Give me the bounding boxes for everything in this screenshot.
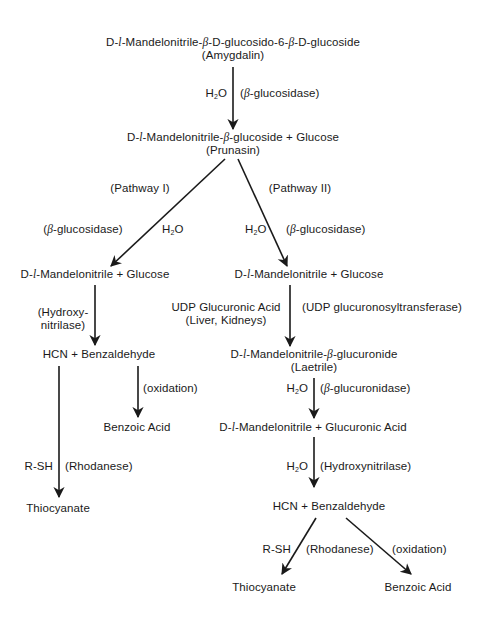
label-pathway-1: (Pathway I) xyxy=(110,182,169,195)
label-p2-oxidation: (oxidation) xyxy=(392,543,447,556)
label-beta-glucuronidase: (β-glucuronidase) xyxy=(320,382,411,395)
label-p1-h2o: H2O xyxy=(162,223,183,236)
node-p1-mandelonitrile: D-l-Mandelonitrile + Glucose xyxy=(21,268,170,281)
amygdalin-alias: (Amygdalin) xyxy=(202,49,264,62)
node-p1-thiocyanate: Thiocyanate xyxy=(26,502,90,515)
label-p2-rhodanese: (Rhodanese) xyxy=(306,543,374,556)
label-h2o: H2O xyxy=(206,87,227,100)
label-p2-h2o: H2O xyxy=(245,223,266,236)
label-p2-hydroxynitrilase: (Hydroxynitrilase) xyxy=(320,460,411,473)
node-p2-benzoic-acid: Benzoic Acid xyxy=(384,581,451,594)
label-udp-glucuronic-acid: UDP Glucuronic Acid xyxy=(171,301,280,314)
node-prunasin: D-l-Mandelonitrile-β-glucoside + Glucose xyxy=(127,131,339,144)
label-p1-rhodanese: (Rhodanese) xyxy=(65,460,133,473)
node-p2-mandelonitrile-glucuronic: D-l-Mandelonitrile + Glucuronic Acid xyxy=(219,421,406,434)
node-laetrile: D-l-Mandelonitrile-β-glucuronide xyxy=(231,348,398,361)
label-p2-glucuronidase-h2o: H2O xyxy=(287,382,308,395)
node-p2-hcn-benzaldehyde: HCN + Benzaldehyde xyxy=(273,500,386,513)
arrow-pathway-1 xyxy=(111,159,225,266)
label-liver-kidneys: (Liver, Kidneys) xyxy=(186,314,267,327)
label-udp-glucuronosyltransferase: (UDP glucuronosyltransferase) xyxy=(302,301,462,314)
node-p1-hcn-benzaldehyde: HCN + Benzaldehyde xyxy=(43,348,156,361)
amygdalin-name: D-l-Mandelonitrile-β-D-glucosido-6-β-D-g… xyxy=(106,36,360,48)
label-pathway-2: (Pathway II) xyxy=(269,182,332,195)
label-beta-glucosidase: (β-glucosidase) xyxy=(240,87,319,100)
label-p2-rsh: R-SH xyxy=(262,543,291,556)
label-p1-hydroxy-line1: (Hydroxy- xyxy=(38,306,89,319)
label-p2-beta-glucosidase: (β-glucosidase) xyxy=(286,223,365,236)
arrow-pathway-2 xyxy=(238,159,287,266)
label-p1-rsh: R-SH xyxy=(24,460,53,473)
node-p1-benzoic-acid: Benzoic Acid xyxy=(103,421,170,434)
node-amygdalin: D-l-Mandelonitrile-β-D-glucosido-6-β-D-g… xyxy=(106,36,360,49)
label-p2-hydroxynitrilase-h2o: H2O xyxy=(287,460,308,473)
node-p2-thiocyanate: Thiocyanate xyxy=(232,581,296,594)
node-p2-mandelonitrile: D-l-Mandelonitrile + Glucose xyxy=(235,268,384,281)
label-p1-oxidation: (oxidation) xyxy=(143,382,198,395)
prunasin-alias: (Prunasin) xyxy=(206,144,260,157)
label-p1-hydroxy-line2: nitrilase) xyxy=(41,319,85,332)
laetrile-alias: (Laetrile) xyxy=(291,361,337,374)
label-p1-beta-glucosidase: (β-glucosidase) xyxy=(43,223,122,236)
